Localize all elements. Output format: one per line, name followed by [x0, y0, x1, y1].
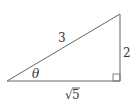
adjacent-side-label: √ 5: [65, 88, 80, 102]
right-angle-marker: [113, 74, 120, 81]
triangle: [7, 14, 120, 81]
triangle-diagram: 3 2 θ √ 5: [0, 0, 137, 108]
hypotenuse-label: 3: [58, 31, 66, 45]
opposite-side-label: 2: [123, 46, 131, 60]
angle-theta-label: θ: [32, 67, 40, 81]
radicand: 5: [72, 88, 80, 102]
